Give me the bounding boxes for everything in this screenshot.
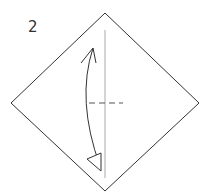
origami-diagram xyxy=(0,0,216,192)
